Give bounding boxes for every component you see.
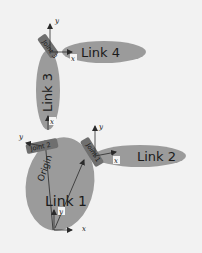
joint-3-y-axis-label: y bbox=[54, 17, 60, 25]
link-3-x-axis-label: x bbox=[50, 118, 54, 126]
joint-1-y-axis-label: y bbox=[98, 123, 104, 131]
link-4-label: Link 4 bbox=[81, 45, 120, 60]
link-2: Link 2 bbox=[94, 145, 186, 167]
joint-1-x-axis-label: x bbox=[114, 157, 118, 165]
joint-2-y-axis-label: y bbox=[18, 133, 24, 141]
link-3-label: Link 3 bbox=[40, 73, 55, 112]
joint-3-x-axis-label: x bbox=[71, 55, 75, 63]
kinematic-diagram: Link 4 Link 3 Link 2 Link 1 Origin y x J… bbox=[0, 0, 202, 253]
base-x-axis-label: x bbox=[82, 225, 86, 233]
link-2-label: Link 2 bbox=[137, 149, 176, 164]
